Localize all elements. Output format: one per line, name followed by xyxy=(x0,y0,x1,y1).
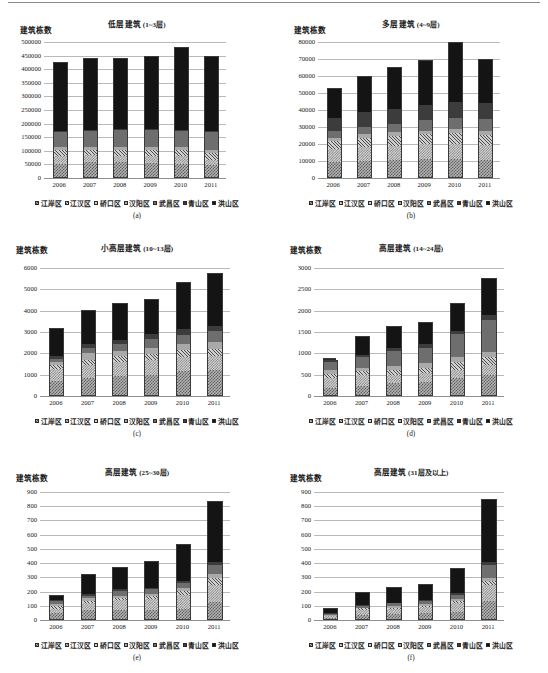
stacked-bar[interactable] xyxy=(355,268,368,396)
y-tick-label: 2000 xyxy=(24,350,40,357)
stacked-bar[interactable] xyxy=(387,42,400,178)
legend-item[interactable]: 洪山区 xyxy=(486,198,513,208)
stacked-bar[interactable] xyxy=(450,268,463,396)
bar-segment xyxy=(207,501,222,562)
stacked-bar[interactable] xyxy=(481,492,494,620)
legend-item[interactable]: 武昌区 xyxy=(427,198,454,208)
stacked-bar[interactable] xyxy=(144,42,157,178)
stacked-bar[interactable] xyxy=(478,42,491,178)
stacked-bar[interactable] xyxy=(207,492,220,620)
stacked-bar[interactable] xyxy=(323,268,336,396)
legend-item[interactable]: 江汉区 xyxy=(65,640,92,650)
stacked-bar[interactable] xyxy=(174,42,187,178)
legend-item[interactable]: 青山区 xyxy=(457,640,484,650)
stacked-bar[interactable] xyxy=(327,42,340,178)
stacked-bar[interactable] xyxy=(112,492,125,620)
bar-segment xyxy=(386,614,401,620)
stacked-bar[interactable] xyxy=(83,42,96,178)
stacked-bar[interactable] xyxy=(357,42,370,178)
legend-item[interactable]: 汉阳区 xyxy=(124,198,151,208)
legend-item[interactable]: 江汉区 xyxy=(65,198,92,208)
legend-item[interactable]: 江汉区 xyxy=(339,198,366,208)
legend-item[interactable]: 硚口区 xyxy=(368,640,395,650)
stacked-bar[interactable] xyxy=(81,268,94,396)
stacked-bar[interactable] xyxy=(418,492,431,620)
legend-item[interactable]: 硚口区 xyxy=(368,198,395,208)
bar-segment xyxy=(207,585,222,602)
legend-item[interactable]: 洪山区 xyxy=(486,416,513,426)
legend-item[interactable]: 江岸区 xyxy=(309,416,336,426)
legend-item[interactable]: 江岸区 xyxy=(309,198,336,208)
legend-item[interactable]: 江岸区 xyxy=(35,416,62,426)
legend-label: 硚口区 xyxy=(100,640,121,650)
bar-segment xyxy=(386,351,401,366)
stacked-bar[interactable] xyxy=(355,492,368,620)
legend-label: 硚口区 xyxy=(374,640,395,650)
legend-item[interactable]: 武昌区 xyxy=(153,640,180,650)
x-tick-label: 2007 xyxy=(72,400,104,407)
legend-item[interactable]: 汉阳区 xyxy=(398,416,425,426)
legend-item[interactable]: 硚口区 xyxy=(94,640,121,650)
legend-b: 江岸区江汉区硚口区汉阳区武昌区青山区洪山区 xyxy=(274,198,548,208)
stacked-bar[interactable] xyxy=(207,268,220,396)
legend-item[interactable]: 汉阳区 xyxy=(124,640,151,650)
bar-segment xyxy=(323,378,338,388)
legend-item[interactable]: 汉阳区 xyxy=(398,198,425,208)
stacked-bar[interactable] xyxy=(176,492,189,620)
stacked-bar[interactable] xyxy=(144,492,157,620)
stacked-bar[interactable] xyxy=(113,42,126,178)
legend-item[interactable]: 江岸区 xyxy=(35,198,62,208)
stacked-bar[interactable] xyxy=(448,42,461,178)
legend-item[interactable]: 洪山区 xyxy=(486,640,513,650)
legend-item[interactable]: 硚口区 xyxy=(94,416,121,426)
legend-item[interactable]: 武昌区 xyxy=(153,198,180,208)
legend-item[interactable]: 青山区 xyxy=(183,416,210,426)
stacked-bar[interactable] xyxy=(112,268,125,396)
chart-title-text: 低层建筑 xyxy=(108,20,140,29)
legend-label: 汉阳区 xyxy=(129,416,150,426)
y-tick-label: 80000 xyxy=(299,39,318,46)
stacked-bar[interactable] xyxy=(144,268,157,396)
stacked-bar[interactable] xyxy=(176,268,189,396)
legend-item[interactable]: 硚口区 xyxy=(368,416,395,426)
legend-item[interactable]: 青山区 xyxy=(183,640,210,650)
legend-item[interactable]: 江汉区 xyxy=(339,640,366,650)
legend-item[interactable]: 江汉区 xyxy=(65,416,92,426)
bar-segment xyxy=(448,159,463,178)
stacked-bar[interactable] xyxy=(386,492,399,620)
bar-group-d xyxy=(314,268,504,396)
y-tick-label: 300 xyxy=(27,574,40,581)
legend-item[interactable]: 洪山区 xyxy=(212,198,239,208)
legend-item[interactable]: 硚口区 xyxy=(94,198,121,208)
stacked-bar[interactable] xyxy=(481,268,494,396)
stacked-bar[interactable] xyxy=(418,42,431,178)
bar-segment xyxy=(176,282,191,330)
y-tick-label: 1500 xyxy=(298,329,314,336)
stacked-bar[interactable] xyxy=(323,492,336,620)
y-tick-label: 400000 xyxy=(21,66,44,73)
legend-item[interactable]: 洪山区 xyxy=(212,640,239,650)
legend-item[interactable]: 江岸区 xyxy=(35,640,62,650)
stacked-bar[interactable] xyxy=(49,492,62,620)
bar-segment xyxy=(355,592,370,604)
legend-item[interactable]: 江汉区 xyxy=(339,416,366,426)
stacked-bar[interactable] xyxy=(81,492,94,620)
stacked-bar[interactable] xyxy=(53,42,66,178)
stacked-bar[interactable] xyxy=(450,492,463,620)
legend-item[interactable]: 武昌区 xyxy=(427,640,454,650)
legend-item[interactable]: 洪山区 xyxy=(212,416,239,426)
y-tick-label: 900 xyxy=(301,489,314,496)
legend-item[interactable]: 武昌区 xyxy=(427,416,454,426)
legend-item[interactable]: 江岸区 xyxy=(309,640,336,650)
legend-item[interactable]: 青山区 xyxy=(183,198,210,208)
legend-item[interactable]: 武昌区 xyxy=(153,416,180,426)
stacked-bar[interactable] xyxy=(386,268,399,396)
stacked-bar[interactable] xyxy=(418,268,431,396)
stacked-bar[interactable] xyxy=(49,268,62,396)
legend-item[interactable]: 青山区 xyxy=(457,416,484,426)
legend-item[interactable]: 青山区 xyxy=(457,198,484,208)
stacked-bar[interactable] xyxy=(204,42,217,178)
legend-item[interactable]: 汉阳区 xyxy=(124,416,151,426)
bar-segment xyxy=(323,362,338,370)
legend-item[interactable]: 汉阳区 xyxy=(398,640,425,650)
